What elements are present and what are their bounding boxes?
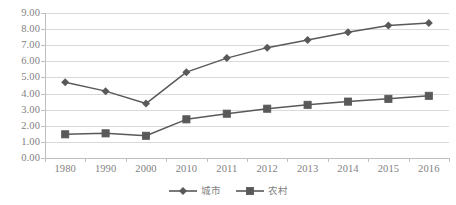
series-1 — [61, 19, 433, 108]
y-axis-tick — [41, 45, 45, 46]
y-axis-tick — [41, 142, 45, 143]
legend-diamond-icon — [168, 185, 198, 197]
y-axis-tick — [41, 29, 45, 30]
data-point-marker — [142, 132, 149, 139]
data-point-marker — [304, 36, 312, 44]
x-axis-tick-label: 2000 — [135, 163, 156, 175]
x-axis-tick-label: 1980 — [54, 163, 75, 175]
legend-item-1[interactable]: 城市 — [168, 185, 221, 197]
x-axis-tick — [409, 158, 410, 162]
x-axis-tick — [207, 158, 208, 162]
data-point-marker — [61, 78, 69, 86]
y-axis-tick — [41, 110, 45, 111]
data-point-marker — [263, 44, 271, 52]
x-axis-tick-label: 2016 — [418, 163, 439, 175]
legend-label: 农村 — [268, 185, 288, 197]
series-line — [65, 96, 429, 136]
series-line — [65, 23, 429, 104]
data-point-marker — [384, 22, 392, 30]
x-axis-tick-label: 2013 — [297, 163, 318, 175]
chart-legend: 城市农村 — [0, 185, 456, 197]
x-axis-tick-label: 2015 — [378, 163, 399, 175]
x-axis-tick — [45, 158, 46, 162]
x-axis-tick-label: 2014 — [337, 163, 358, 175]
x-axis-tick — [328, 158, 329, 162]
data-point-marker — [102, 130, 109, 137]
x-axis-tick — [247, 158, 248, 162]
y-axis-tick — [41, 61, 45, 62]
data-point-marker — [344, 98, 351, 105]
data-point-marker — [223, 54, 231, 62]
x-axis-tick-label: 2011 — [216, 163, 237, 175]
line-chart: 9.008.007.006.005.004.003.002.001.000.00… — [0, 0, 456, 205]
x-axis-tick-label: 2012 — [256, 163, 277, 175]
data-point-marker — [425, 19, 433, 27]
x-axis-tick-label: 2010 — [176, 163, 197, 175]
data-point-marker — [264, 105, 271, 112]
y-axis-tick — [41, 77, 45, 78]
legend-item-2[interactable]: 农村 — [235, 185, 288, 197]
data-point-marker — [62, 131, 69, 138]
x-axis-tick — [368, 158, 369, 162]
data-point-marker — [385, 95, 392, 102]
data-point-marker — [102, 87, 110, 95]
y-axis-tick — [41, 94, 45, 95]
y-axis-tick — [41, 126, 45, 127]
x-axis-tick — [126, 158, 127, 162]
series-2 — [62, 92, 433, 139]
x-axis-tick — [449, 158, 450, 162]
data-point-marker — [344, 28, 352, 36]
legend-square-icon — [235, 185, 265, 197]
data-point-marker — [223, 110, 230, 117]
y-axis-tick — [41, 13, 45, 14]
x-axis-tick — [287, 158, 288, 162]
data-point-marker — [183, 116, 190, 123]
x-axis-labels: 1980199020002010201120122013201420152016 — [45, 163, 449, 179]
legend-label: 城市 — [201, 185, 221, 197]
data-point-marker — [304, 101, 311, 108]
x-axis-tick-label: 1990 — [95, 163, 116, 175]
data-point-marker — [425, 92, 432, 99]
x-axis-tick — [85, 158, 86, 162]
x-axis-tick — [166, 158, 167, 162]
